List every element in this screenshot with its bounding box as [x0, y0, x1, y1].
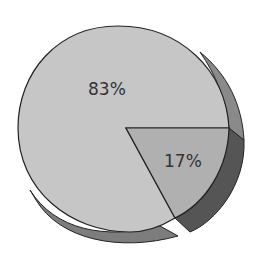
label-83: 83%: [88, 79, 126, 99]
pie-chart: 83% 17%: [0, 0, 263, 271]
label-17: 17%: [164, 151, 202, 171]
